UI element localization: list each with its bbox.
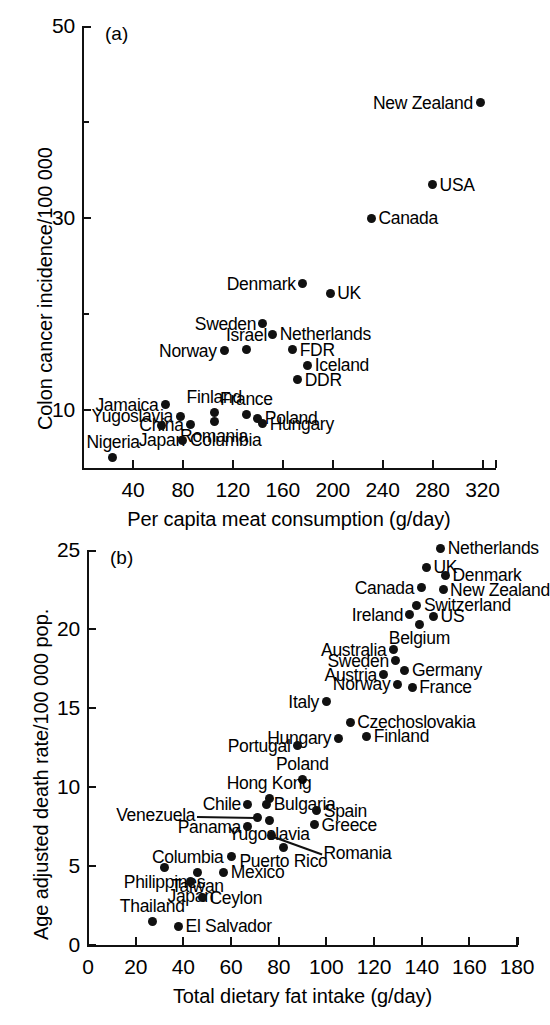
data-point-label: Ceylon xyxy=(209,890,262,908)
data-point xyxy=(389,645,398,654)
data-point-label: Greece xyxy=(321,817,377,835)
data-point xyxy=(346,718,355,727)
x-tick xyxy=(482,460,484,468)
y-axis-cap xyxy=(88,550,96,552)
data-point-label: El Salvador xyxy=(186,918,272,936)
panel-tag: (b) xyxy=(110,547,133,569)
y-axis-line xyxy=(82,26,84,470)
data-point xyxy=(476,98,485,107)
data-point-label: Ireland xyxy=(352,607,403,625)
y-tick xyxy=(83,409,91,411)
x-axis-cap xyxy=(495,460,497,468)
data-point xyxy=(288,345,297,354)
data-point xyxy=(428,180,437,189)
data-point xyxy=(412,601,421,610)
data-point-label: UK xyxy=(337,285,361,303)
x-tick xyxy=(87,937,89,945)
x-tick-label: 160 xyxy=(255,479,311,500)
data-point-label: Belgium xyxy=(389,630,450,648)
data-point-label: Romania xyxy=(324,845,392,863)
data-point xyxy=(160,863,169,872)
panel-tag: (a) xyxy=(105,23,128,45)
data-point xyxy=(400,666,409,675)
data-point xyxy=(210,408,219,417)
data-point xyxy=(148,917,157,926)
data-point-label: Thailand xyxy=(120,898,185,916)
data-point-label: DDR xyxy=(305,372,342,390)
x-tick xyxy=(278,937,280,945)
x-tick xyxy=(135,937,137,945)
x-tick-label: 40 xyxy=(105,479,161,500)
data-point-label: Norway xyxy=(159,343,217,361)
data-point xyxy=(174,922,183,931)
data-point-label: France xyxy=(220,391,273,409)
data-point xyxy=(408,683,417,692)
data-point xyxy=(362,732,371,741)
data-point-label: Canada xyxy=(355,580,415,598)
chart-panel-a: 1030504080120160200240280320Per capita m… xyxy=(0,0,543,520)
x-tick-label: 200 xyxy=(305,479,361,500)
x-tick xyxy=(373,937,375,945)
data-point xyxy=(303,361,312,370)
data-point xyxy=(436,544,445,553)
data-point xyxy=(326,289,335,298)
y-tick-label: 25 xyxy=(30,539,80,560)
data-point-label: Nigeria xyxy=(86,434,139,452)
data-point xyxy=(108,453,117,462)
x-tick xyxy=(132,460,134,468)
data-point xyxy=(293,741,302,750)
data-point xyxy=(198,893,207,902)
x-tick-label: 320 xyxy=(455,479,511,500)
data-point-label: Norway xyxy=(333,676,391,694)
data-point xyxy=(262,800,271,809)
data-point-label: Israel xyxy=(226,327,267,345)
data-point-label: Hungary xyxy=(270,416,334,434)
data-point xyxy=(268,330,277,339)
data-point-label: Finland xyxy=(374,728,429,746)
x-tick xyxy=(382,460,384,468)
y-tick xyxy=(88,865,96,867)
data-point xyxy=(367,214,376,223)
data-point-label: Columbia xyxy=(190,432,262,450)
data-point-label: Switzerland xyxy=(424,597,511,615)
y-axis-line xyxy=(87,550,89,947)
y-tick xyxy=(88,944,96,946)
x-tick xyxy=(332,460,334,468)
x-tick-label: 280 xyxy=(405,479,461,500)
x-axis-title: Total dietary fat intake (g/day) xyxy=(173,985,432,1008)
data-point xyxy=(220,346,229,355)
data-point xyxy=(391,656,400,665)
y-axis-cap xyxy=(83,26,91,28)
y-minor-tick xyxy=(83,121,89,123)
data-point xyxy=(417,583,426,592)
x-tick-label: 120 xyxy=(205,479,261,500)
data-point xyxy=(322,697,331,706)
y-minor-tick xyxy=(83,313,89,315)
data-point xyxy=(429,612,438,621)
x-tick xyxy=(232,460,234,468)
data-point xyxy=(227,852,236,861)
data-point xyxy=(439,585,448,594)
data-point-label: France xyxy=(419,679,472,697)
data-point-label: USA xyxy=(440,177,475,195)
y-axis-title: Colon cancer incidence/100 000 xyxy=(34,147,57,430)
data-point-label: Chile xyxy=(203,796,241,814)
data-point xyxy=(441,571,450,580)
data-point xyxy=(243,800,252,809)
data-point xyxy=(334,734,343,743)
x-tick xyxy=(432,460,434,468)
x-axis-line xyxy=(82,468,496,470)
data-point xyxy=(405,610,414,619)
data-point-label: Denmark xyxy=(227,276,296,294)
x-tick xyxy=(230,937,232,945)
data-point-label: Netherlands xyxy=(448,540,539,558)
y-axis-title: Age adjusted death rate/100 000 pop. xyxy=(30,609,53,940)
data-point-label: Poland xyxy=(276,756,329,774)
chart-panel-b: 0510152025020406080100120140160180Total … xyxy=(0,520,543,1025)
data-point xyxy=(393,680,402,689)
x-tick xyxy=(182,937,184,945)
data-point xyxy=(242,410,251,419)
x-tick-label: 80 xyxy=(155,479,211,500)
x-tick xyxy=(282,460,284,468)
data-point-label: Canada xyxy=(378,210,438,228)
